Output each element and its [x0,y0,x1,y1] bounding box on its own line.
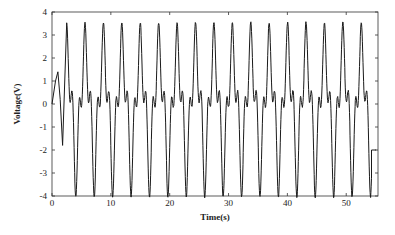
y-tick-label: 2 [43,53,48,63]
voltage-signal-line [52,22,376,198]
y-tick-label: -1 [40,122,48,132]
x-tick-label: 40 [283,198,293,208]
voltage-time-chart: -4-3-2-101234 01020304050 Time(s) Voltag… [0,0,395,235]
y-tick-label: -2 [40,145,48,155]
x-tick-label: 50 [342,198,352,208]
y-tick-label: 4 [43,7,48,17]
y-axis-label: Voltage(V) [12,83,22,124]
x-tick-label: 30 [224,198,234,208]
x-tick-label: 0 [50,198,55,208]
y-axis-ticks: -4-3-2-101234 [40,7,379,201]
x-tick-label: 10 [106,198,116,208]
y-tick-label: 0 [43,99,48,109]
x-tick-label: 20 [165,198,175,208]
y-tick-label: 3 [43,30,48,40]
y-tick-label: 1 [43,76,48,86]
y-tick-label: -4 [40,191,48,201]
y-tick-label: -3 [40,168,48,178]
x-axis-label: Time(s) [200,212,229,222]
